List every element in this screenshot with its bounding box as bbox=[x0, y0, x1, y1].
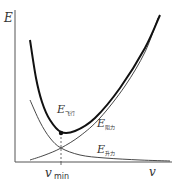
vmin-label-sub: min bbox=[54, 172, 69, 181]
total-curve-label-sub: 飞行 bbox=[65, 110, 75, 117]
drag-curve-label-sub: 阻力 bbox=[105, 124, 115, 131]
lift-curve-label-main: E bbox=[96, 143, 105, 156]
minimum-point-marker bbox=[59, 131, 63, 135]
x-axis-label: v bbox=[149, 165, 156, 179]
total-flight-energy-curve bbox=[30, 15, 160, 133]
y-axis-label: E bbox=[3, 11, 13, 25]
lift-curve-label-sub: 升力 bbox=[105, 150, 115, 157]
drag-energy-curve bbox=[30, 18, 158, 160]
chart-canvas: E v v min E 飞行 E 阻力 E 升力 bbox=[0, 0, 177, 184]
total-curve-label-main: E bbox=[56, 103, 65, 116]
vmin-label-main: v bbox=[45, 166, 52, 180]
energy-vs-velocity-chart: E v v min E 飞行 E 阻力 E 升力 bbox=[0, 0, 177, 184]
drag-curve-label-main: E bbox=[96, 117, 105, 130]
